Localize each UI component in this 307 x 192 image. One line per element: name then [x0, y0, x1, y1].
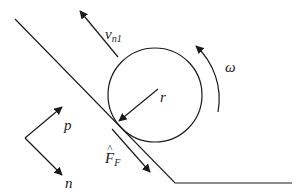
incline-surface: [15, 19, 292, 183]
rolling-disk-diagram: vn1 ω r FF ^ p n: [0, 0, 307, 192]
omega-label: ω: [225, 59, 236, 75]
axis-p-arrow: [25, 107, 62, 138]
axis-n-label: n: [65, 175, 73, 191]
disk: [108, 48, 202, 142]
axis-n-arrow: [25, 138, 62, 175]
radius-arrow: [119, 89, 158, 121]
axis-p-label: p: [63, 117, 72, 133]
velocity-label: vn1: [105, 26, 122, 44]
radius-label: r: [160, 89, 166, 105]
